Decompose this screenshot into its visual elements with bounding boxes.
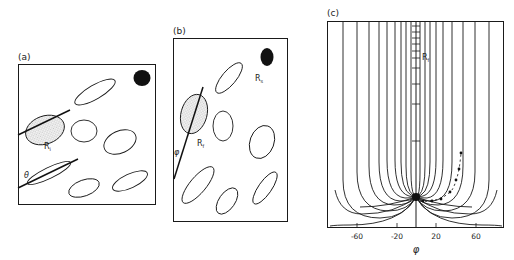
strain-ellipse <box>249 169 281 208</box>
x-tick-label: -60 <box>351 232 363 241</box>
x-tick-label: 60 <box>471 232 481 241</box>
strain-ellipse <box>66 175 102 201</box>
x-tick-labels: -60 -20 20 60 <box>351 232 481 241</box>
panel-c-label: (c) <box>327 8 339 18</box>
x-tick-label: -20 <box>391 232 403 241</box>
panel-a-label: (a) <box>18 52 31 62</box>
figure-canvas: (a) Ri θ (b) Rs φ Rf <box>0 0 514 260</box>
convergence-point <box>412 193 420 201</box>
panel-a: (a) Ri θ <box>18 52 156 205</box>
strain-ellipse <box>213 111 233 141</box>
phi-label: φ <box>174 148 180 157</box>
strain-ellipse <box>100 125 140 159</box>
strain-ellipse <box>245 122 279 162</box>
strain-ellipse <box>212 184 242 218</box>
reference-marker-ellipse <box>134 70 151 86</box>
panel-b-label: (b) <box>173 26 186 36</box>
strain-ellipse <box>72 74 119 109</box>
phi-axis-label: φ <box>413 244 420 255</box>
strain-ellipse <box>110 167 150 196</box>
panel-b: (b) Rs φ Rf <box>173 26 288 222</box>
theta-label: θ <box>24 171 29 180</box>
marker-label: Rs <box>255 74 264 84</box>
reference-marker-ellipse <box>261 48 274 66</box>
strain-ellipse <box>71 120 97 142</box>
panel-c: (c) <box>327 8 504 255</box>
final-ellipse-label: Rf <box>197 139 205 149</box>
rf-axis-label: Rf <box>422 53 430 63</box>
strain-ellipse <box>211 59 246 97</box>
strain-ellipse <box>177 162 219 208</box>
x-tick-label: 20 <box>431 232 441 241</box>
